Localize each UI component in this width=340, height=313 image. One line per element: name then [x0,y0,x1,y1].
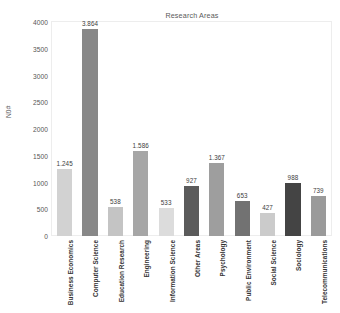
bar[interactable] [133,151,148,236]
bar[interactable] [260,213,275,236]
bar-value-label: 1.245 [57,160,73,167]
bar-column[interactable]: 1.586 [133,22,148,236]
bar[interactable] [108,207,123,236]
y-tick-label: 0 [4,233,48,240]
bar-column[interactable]: 653 [235,22,250,236]
bar-value-label: 739 [313,187,324,194]
bar-series: 1.2453.8645381.5865339271.36765342798873… [52,22,331,236]
x-category-label: Information Science [169,240,176,302]
bar[interactable] [235,201,250,236]
x-category-label: Telecommunications [321,240,328,304]
chart-title: Research Areas [50,11,334,20]
bar-value-label: 1.586 [133,142,149,149]
x-category-label: Business Economics [67,240,74,305]
y-tick-label: 2000 [4,126,48,133]
x-axis-category-labels: Business EconomicsComputer ScienceEducat… [52,238,331,313]
y-tick-label: 3000 [4,72,48,79]
bar-value-label: 1.367 [209,154,225,161]
x-category-label: Psychology [219,240,226,276]
bar-column[interactable]: 427 [260,22,275,236]
x-category-label: Education Research [118,240,125,302]
bar-value-label: 3.864 [82,20,98,27]
y-axis-tick-labels: 05001000150020002500300035004000 [0,0,48,313]
y-tick-label: 3500 [4,45,48,52]
bar[interactable] [311,196,326,236]
bar-column[interactable]: 739 [311,22,326,236]
bar[interactable] [184,186,199,236]
y-tick-label: 2500 [4,99,48,106]
y-tick-label: 4000 [4,19,48,26]
bar-column[interactable]: 533 [159,22,174,236]
bar[interactable] [209,163,224,236]
bar-value-label: 653 [237,192,248,199]
bar[interactable] [159,208,174,237]
y-tick-label: 500 [4,206,48,213]
bar-value-label: 427 [262,204,273,211]
bar-column[interactable]: 1.367 [209,22,224,236]
bar-column[interactable]: 538 [108,22,123,236]
bar[interactable] [82,29,97,236]
chart-figure: Research Areas N0# 050010001500200025003… [0,0,340,313]
bar-value-label: 538 [110,198,121,205]
x-category-label: Other Areas [194,240,201,277]
bar[interactable] [57,169,72,236]
bar[interactable] [285,183,300,236]
y-tick-label: 1000 [4,179,48,186]
bar-value-label: 533 [161,199,172,206]
y-tick-label: 1500 [4,152,48,159]
x-category-label: Sociology [295,240,302,271]
bar-column[interactable]: 1.245 [57,22,72,236]
bar-column[interactable]: 988 [285,22,300,236]
bar-column[interactable]: 927 [184,22,199,236]
x-category-label: Social Science [270,240,277,285]
bar-value-label: 927 [186,177,197,184]
bar-value-label: 988 [288,174,299,181]
x-category-label: Engineering [143,240,150,277]
x-category-label: Public Environment [245,240,252,301]
bar-column[interactable]: 3.864 [82,22,97,236]
x-category-label: Computer Science [92,240,99,297]
